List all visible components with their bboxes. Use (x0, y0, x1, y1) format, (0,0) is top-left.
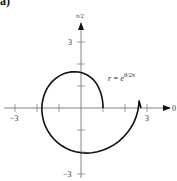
equation-base: r = e (108, 74, 125, 83)
x-tick-label-3: 3 (145, 114, 149, 123)
equation-exponent: θ/2π (124, 72, 136, 78)
vertical-axis-label: π/2 (76, 13, 84, 19)
polar-spiral-diagram: −3 3 3 −3 0 π/2 r = eθ/2π (0, 0, 177, 181)
equation-label: r = eθ/2π (108, 72, 136, 83)
x-tick-label-neg3: −3 (10, 114, 19, 123)
y-tick-label-3: 3 (68, 38, 72, 47)
spiral-curve (42, 72, 141, 153)
polar-axis-label: 0 (172, 104, 176, 113)
y-tick-label-neg3: −3 (63, 170, 72, 179)
